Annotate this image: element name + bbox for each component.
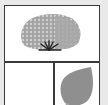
grid-cell-top[interactable] [5,6,99,61]
shrub-icon [5,6,100,61]
grid-cell-bottom-right[interactable] [55,63,101,105]
picture-grid [4,5,100,105]
grid-cell-bottom-left[interactable] [5,63,53,105]
leaf-icon [55,63,101,105]
